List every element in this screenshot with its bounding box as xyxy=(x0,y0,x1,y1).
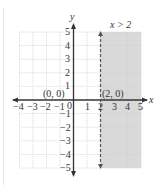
arrow-down-icon xyxy=(71,171,76,177)
svg-text:4: 4 xyxy=(65,40,70,51)
svg-text:−5: −5 xyxy=(60,162,71,173)
svg-text:−2: −2 xyxy=(60,122,71,133)
x-axis-label: x xyxy=(148,94,154,105)
svg-text:−4: −4 xyxy=(60,149,71,160)
y-axis-label: y xyxy=(69,11,75,22)
point-boundary-label: (2, 0) xyxy=(102,88,124,100)
svg-text:3: 3 xyxy=(112,101,117,112)
svg-text:5: 5 xyxy=(138,101,143,112)
svg-text:1: 1 xyxy=(65,80,70,91)
inequality-label: x > 2 xyxy=(109,19,131,30)
svg-text:2: 2 xyxy=(98,101,103,112)
svg-text:−2: −2 xyxy=(40,101,51,112)
svg-text:4: 4 xyxy=(125,101,130,112)
svg-text:−3: −3 xyxy=(27,101,38,112)
svg-text:−3: −3 xyxy=(60,135,71,146)
graph-frame: x > 2 y x (0, 0) (2, 0) −4 −3 −2 −1 0 1 … xyxy=(0,0,163,185)
svg-text:−4: −4 xyxy=(13,101,24,112)
point-origin-label: (0, 0) xyxy=(43,88,65,100)
svg-text:2: 2 xyxy=(65,67,70,78)
svg-text:3: 3 xyxy=(65,53,70,64)
inequality-graph: x > 2 y x (0, 0) (2, 0) −4 −3 −2 −1 0 1 … xyxy=(0,0,163,185)
svg-text:1: 1 xyxy=(85,101,90,112)
svg-text:5: 5 xyxy=(65,26,70,37)
arrow-up-icon xyxy=(71,23,76,29)
svg-text:−1: −1 xyxy=(60,108,71,119)
